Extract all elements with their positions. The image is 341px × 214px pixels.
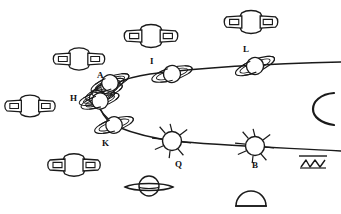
diagram-scene <box>0 0 341 214</box>
diagram-canvas: A I L H K Q B <box>0 0 341 214</box>
